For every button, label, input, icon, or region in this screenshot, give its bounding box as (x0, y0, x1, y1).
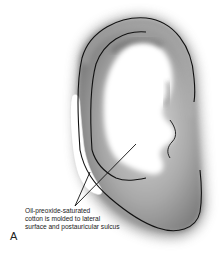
caption-line-2: cotton is molded to lateral (25, 215, 120, 223)
caption-line-1: Oil-preoxide-saturated (25, 207, 120, 215)
ear-illustration: Oil-preoxide-saturated cotton is molded … (0, 0, 224, 258)
panel-label: A (10, 230, 17, 242)
caption-line-3: surface and postauricular sulcus (25, 223, 120, 231)
annotation-caption: Oil-preoxide-saturated cotton is molded … (25, 207, 120, 232)
